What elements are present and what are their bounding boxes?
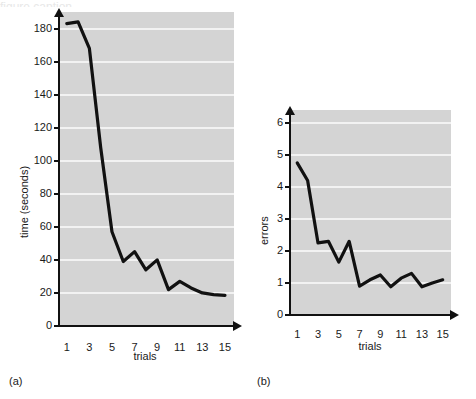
panel-a: 020406080100120140160180 13579111315 tri… bbox=[0, 0, 250, 399]
y-axis-title-a: time (seconds) bbox=[18, 166, 30, 238]
panel-b: 0123456 13579111315 trials errors (b) bbox=[250, 0, 476, 399]
y-axis-title-b: errors bbox=[258, 216, 270, 245]
data-line-a bbox=[0, 0, 250, 399]
x-axis-title-a: trials bbox=[100, 350, 190, 362]
x-axis-title-b: trials bbox=[330, 340, 410, 352]
figure-container: figure caption 020406080100120140160180 … bbox=[0, 0, 476, 399]
panel-label-a: (a) bbox=[9, 375, 22, 387]
panel-label-b: (b) bbox=[257, 375, 270, 387]
